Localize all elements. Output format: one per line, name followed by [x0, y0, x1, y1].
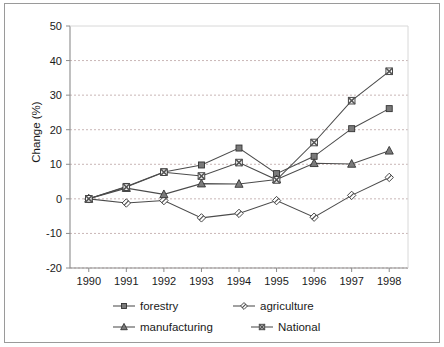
x-tick-label: 1994 [227, 275, 251, 287]
data-point-crossed-square [85, 196, 92, 203]
y-axis-title: Change (%) [30, 101, 42, 163]
legend-item-national[interactable]: National [251, 321, 320, 333]
y-tick-label: 20 [50, 124, 62, 136]
x-tick-label: 1993 [189, 275, 213, 287]
data-point-crossed-square [236, 159, 243, 166]
data-point-filled-square [122, 304, 127, 309]
data-point-slashed-diamond [272, 196, 280, 204]
data-point-slashed-diamond [241, 303, 248, 310]
x-tick-label: 1998 [377, 275, 401, 287]
data-point-crossed-square [161, 169, 168, 176]
data-point-slashed-diamond [197, 214, 205, 222]
y-tick-label: 50 [50, 20, 62, 32]
data-point-filled-square [386, 106, 392, 112]
legend-item-forestry[interactable]: forestry [113, 300, 179, 312]
legend-label: agriculture [260, 300, 314, 312]
x-tick-label: 1995 [264, 275, 288, 287]
data-point-slashed-diamond [122, 199, 130, 207]
data-point-slashed-diamond [235, 209, 243, 217]
series-line [89, 151, 389, 199]
y-tick-label: 10 [50, 158, 62, 170]
data-point-filled-triangle [310, 159, 318, 167]
legend-label: forestry [140, 300, 179, 312]
y-tick-label: -10 [46, 227, 62, 239]
y-tick-label: 30 [50, 89, 62, 101]
x-axis-tick-labels: 199019911992199319941995199619971998 [77, 275, 402, 287]
legend-item-manufacturing[interactable]: manufacturing [113, 321, 213, 333]
data-point-filled-square [236, 145, 242, 151]
x-tick-label: 1990 [77, 275, 101, 287]
data-point-filled-square [198, 162, 204, 168]
data-point-crossed-square [386, 68, 393, 75]
line-chart: -20-1001020304050 1990199119921993199419… [0, 0, 444, 347]
data-point-slashed-diamond [385, 173, 393, 181]
data-point-crossed-square [348, 97, 355, 104]
data-point-crossed-square [273, 177, 280, 184]
data-point-filled-triangle [385, 146, 393, 154]
data-point-filled-triangle [197, 179, 205, 187]
x-tick-label: 1996 [302, 275, 326, 287]
data-point-slashed-diamond [347, 191, 355, 199]
x-tick-label: 1992 [152, 275, 176, 287]
y-axis-title-text: Change (%) [30, 101, 42, 163]
y-tick-label: 40 [50, 55, 62, 67]
chart-legend: forestryagriculturemanufacturingNational [113, 300, 320, 333]
data-point-crossed-square [259, 324, 264, 329]
series-manufacturing [85, 146, 394, 202]
y-tick-label: -20 [46, 262, 62, 274]
data-point-filled-square [349, 126, 355, 132]
y-axis-tick-labels: -20-1001020304050 [46, 20, 62, 274]
data-point-crossed-square [198, 173, 205, 180]
data-point-crossed-square [311, 139, 318, 146]
data-point-crossed-square [123, 184, 130, 191]
chart-figure: -20-1001020304050 1990199119921993199419… [0, 0, 444, 347]
y-tick-label: 0 [56, 193, 62, 205]
x-tick-label: 1991 [114, 275, 138, 287]
legend-label: manufacturing [140, 321, 213, 333]
legend-item-agriculture[interactable]: agriculture [233, 300, 314, 312]
x-tick-label: 1997 [339, 275, 363, 287]
data-point-slashed-diamond [310, 213, 318, 221]
legend-label: National [278, 321, 320, 333]
